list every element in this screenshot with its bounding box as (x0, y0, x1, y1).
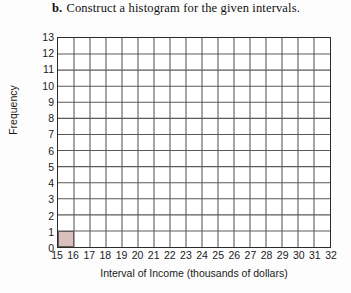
y-tick-label: 11 (32, 64, 54, 75)
y-tick-label: 7 (32, 129, 54, 140)
y-tick-label: 5 (32, 162, 54, 173)
plot-region (57, 37, 331, 248)
y-tick-label: 8 (32, 113, 54, 124)
y-tick-label: 1 (32, 227, 54, 238)
y-tick-label: 12 (32, 48, 54, 59)
y-axis-tick-labels: 012345678910111213 (30, 37, 54, 248)
histogram-bar (58, 231, 74, 247)
y-tick-label: 4 (32, 178, 54, 189)
y-tick-label: 6 (32, 146, 54, 157)
y-tick-label: 9 (32, 97, 54, 108)
x-tick-label: 32 (319, 250, 343, 261)
x-axis-title: Interval of Income (thousands of dollars… (57, 267, 331, 279)
histogram-bars (58, 38, 330, 247)
x-axis-tick-labels: 151617181920212223242526272829303132 (57, 250, 331, 264)
y-tick-label: 3 (32, 194, 54, 205)
histogram-chart: Frequency 012345678910111213 15161718192… (0, 0, 351, 293)
y-tick-label: 2 (32, 211, 54, 222)
y-tick-label: 13 (32, 32, 54, 43)
y-tick-label: 10 (32, 81, 54, 92)
y-axis-title: Frequency (7, 65, 19, 155)
